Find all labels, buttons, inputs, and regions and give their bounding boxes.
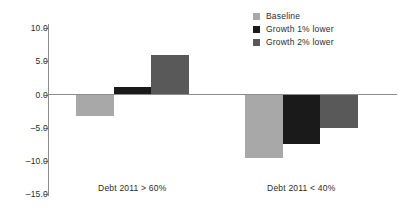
bar — [283, 95, 321, 145]
category-label: Debt 2011 > 60% — [72, 183, 192, 193]
y-tick-label: –5.0 — [6, 124, 48, 133]
y-tick: –5.0 — [0, 128, 48, 129]
y-tick: 0.0 — [0, 95, 48, 96]
chart-legend: BaselineGrowth 1% lowerGrowth 2% lower — [253, 10, 334, 49]
legend-item: Growth 1% lower — [253, 23, 334, 36]
bar — [76, 95, 114, 116]
bar — [114, 87, 152, 94]
y-tick-label: –10.0 — [6, 157, 48, 166]
bar — [320, 95, 358, 128]
legend-item: Baseline — [253, 10, 334, 23]
bar — [151, 55, 189, 95]
y-tick: –10.0 — [0, 161, 48, 162]
legend-label: Baseline — [266, 12, 300, 21]
legend-label: Growth 1% lower — [266, 25, 334, 34]
category-label: Debt 2011 < 40% — [241, 183, 361, 193]
legend-swatch-icon — [253, 39, 260, 46]
y-tick-label: 5.0 — [6, 57, 48, 66]
y-axis-line — [48, 24, 49, 196]
y-tick: 5.0 — [0, 61, 48, 62]
bar — [245, 95, 283, 159]
y-tick-label: –15.0 — [6, 190, 48, 199]
y-tick: –15.0 — [0, 194, 48, 195]
legend-item: Growth 2% lower — [253, 36, 334, 49]
bar-chart: 10.05.00.0–5.0–10.0–15.0 Debt 2011 > 60%… — [0, 0, 403, 222]
y-tick-label: 0.0 — [6, 91, 48, 100]
legend-swatch-icon — [253, 26, 260, 33]
y-tick: 10.0 — [0, 28, 48, 29]
legend-swatch-icon — [253, 13, 260, 20]
legend-label: Growth 2% lower — [266, 38, 334, 47]
y-tick-label: 10.0 — [6, 24, 48, 33]
